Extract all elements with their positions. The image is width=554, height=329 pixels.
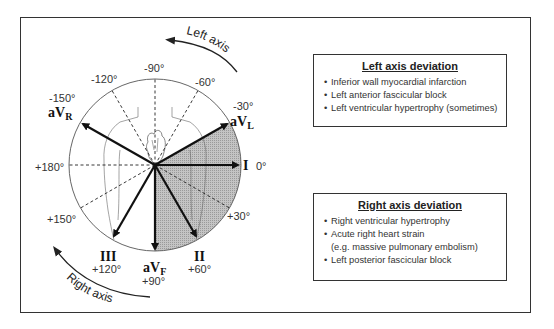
- angle-label-zero: 0°: [256, 161, 267, 172]
- lead-label-i: I: [243, 159, 248, 173]
- angle-label-plus120: +120°: [92, 264, 121, 275]
- right-axis-deviation-list: •Right ventricular hypertrophy •Acute ri…: [314, 215, 506, 267]
- angle-label-minus60: -60°: [195, 77, 215, 88]
- angle-label-minus120: -120°: [91, 74, 117, 85]
- left-axis-deviation-list: •Inferior wall myocardial infarction •Le…: [314, 76, 506, 115]
- heart-icon: [147, 130, 166, 164]
- angle-label-minus30: -30°: [233, 101, 253, 112]
- list-item-continuation: (e.g. massive pulmonary embolism): [324, 241, 506, 254]
- vector-avr: [83, 124, 155, 165]
- vector-iii: [114, 165, 155, 236]
- right-axis-deviation-box: Right axis deviation •Right ventricular …: [313, 193, 507, 281]
- left-axis-deviation-box: Left axis deviation •Inferior wall myoca…: [313, 54, 507, 127]
- lead-label-avf: aVF: [143, 261, 166, 277]
- lead-label-avl: aVL: [230, 115, 254, 131]
- list-item: •Left posterior fascicular block: [324, 254, 506, 267]
- lead-label-iii: III: [100, 250, 116, 264]
- right-axis-deviation-title: Right axis deviation: [314, 199, 506, 211]
- angle-label-plus90: +90°: [142, 276, 165, 287]
- lead-label-ii: II: [194, 250, 205, 264]
- list-item: •Acute right heart strain: [324, 228, 506, 241]
- lead-label-avr: aVR: [48, 106, 72, 122]
- angle-label-minus150: -150°: [49, 93, 75, 104]
- left-axis-deviation-title: Left axis deviation: [314, 60, 506, 72]
- angle-label-minus90: -90°: [144, 63, 164, 74]
- list-item: •Left anterior fascicular block: [324, 89, 506, 102]
- list-item: •Right ventricular hypertrophy: [324, 215, 506, 228]
- angle-label-plus30: +30°: [227, 211, 250, 222]
- list-item: •Left ventricular hypertrophy (sometimes…: [324, 102, 506, 115]
- angle-label-plus60: +60°: [188, 264, 211, 275]
- angle-label-plus180: +180°: [35, 162, 64, 173]
- list-item: •Inferior wall myocardial infarction: [324, 76, 506, 89]
- angle-label-plus150: +150°: [47, 214, 76, 225]
